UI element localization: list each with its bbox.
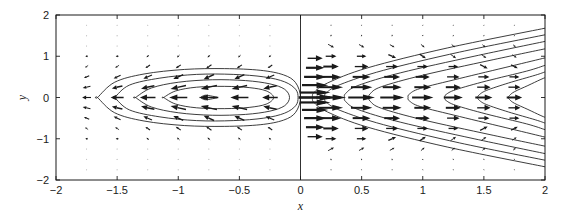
x-tick-label: −2 (50, 184, 63, 196)
x-tick-label: 1.5 (476, 184, 491, 196)
y-tick-label: 2 (43, 9, 49, 21)
x-tick-label: −1.5 (106, 184, 128, 196)
contour-quiver-plot: −2−1.5−1−0.500.511.52 −2−1012 x y (0, 0, 573, 220)
y-tick-label: −2 (36, 174, 49, 186)
figure-container: −2−1.5−1−0.500.511.52 −2−1012 x y (0, 0, 573, 220)
x-axis-title: x (297, 199, 304, 213)
x-tick-label: −1 (172, 184, 185, 196)
x-tick-label: −0.5 (229, 184, 251, 196)
x-tick-label: 1 (420, 184, 426, 196)
y-tick-label: 1 (43, 50, 49, 62)
x-tick-label: 0.5 (354, 184, 369, 196)
y-tick-label: −1 (36, 133, 49, 145)
y-tick-label: 0 (43, 92, 49, 104)
x-tick-label: 2 (542, 184, 548, 196)
x-tick-label: 0 (297, 184, 303, 196)
y-axis-title: y (15, 94, 29, 101)
